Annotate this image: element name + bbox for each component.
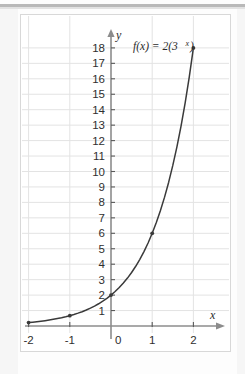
screenshot-root: 123456789101112131415161718 -2-1012 yx f… bbox=[0, 0, 245, 374]
page-margin-right bbox=[237, 9, 245, 374]
svg-text:1: 1 bbox=[149, 334, 155, 346]
svg-text:9: 9 bbox=[99, 181, 105, 193]
svg-text:16: 16 bbox=[92, 73, 105, 85]
svg-text:-1: -1 bbox=[65, 334, 75, 346]
svg-text:0: 0 bbox=[115, 334, 121, 346]
function-equation-label: f(x) = 2(3x) bbox=[133, 39, 194, 54]
horizontal-gridlines bbox=[22, 48, 229, 311]
svg-text:2: 2 bbox=[99, 289, 105, 301]
svg-text:f(x) = 2(3: f(x) = 2(3 bbox=[133, 40, 178, 53]
svg-text:4: 4 bbox=[99, 258, 106, 270]
svg-text:10: 10 bbox=[92, 166, 105, 178]
page-margin-left bbox=[0, 9, 18, 374]
svg-text:3: 3 bbox=[99, 274, 105, 286]
svg-text:18: 18 bbox=[92, 42, 105, 54]
svg-text:-2: -2 bbox=[23, 334, 33, 346]
top-divider-rule-soft bbox=[0, 7, 245, 9]
svg-text:6: 6 bbox=[99, 227, 105, 239]
svg-text:x: x bbox=[209, 308, 216, 322]
svg-text:1: 1 bbox=[99, 305, 105, 317]
svg-text:11: 11 bbox=[93, 150, 105, 162]
axis-name-labels: yx bbox=[115, 28, 216, 322]
svg-text:14: 14 bbox=[92, 104, 105, 116]
svg-text:7: 7 bbox=[99, 212, 105, 224]
svg-text:x: x bbox=[185, 39, 190, 48]
svg-text:17: 17 bbox=[92, 57, 105, 69]
svg-text:): ) bbox=[189, 40, 194, 53]
svg-text:12: 12 bbox=[92, 135, 105, 147]
y-axis-tick-labels: 123456789101112131415161718 bbox=[92, 42, 105, 317]
svg-text:8: 8 bbox=[99, 196, 105, 208]
exponential-function-graph: 123456789101112131415161718 -2-1012 yx f… bbox=[21, 15, 230, 351]
axes bbox=[25, 29, 225, 339]
x-axis-tick-labels: -2-1012 bbox=[23, 334, 196, 346]
svg-text:13: 13 bbox=[92, 119, 105, 131]
graph-panel: 123456789101112131415161718 -2-1012 yx f… bbox=[20, 14, 231, 352]
svg-text:15: 15 bbox=[92, 88, 105, 100]
svg-text:5: 5 bbox=[99, 243, 105, 255]
svg-text:y: y bbox=[115, 28, 122, 42]
svg-text:2: 2 bbox=[190, 334, 196, 346]
